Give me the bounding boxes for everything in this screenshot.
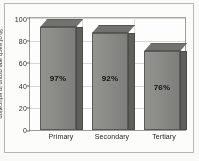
y-tickmark-100 bbox=[27, 18, 30, 19]
y-tickmark-0 bbox=[27, 131, 30, 132]
x-axis-labels: Primary Secondary Tertiary bbox=[29, 133, 186, 145]
bar-primary[interactable]: 97% bbox=[40, 20, 76, 130]
x-label-tertiary: Tertiary bbox=[135, 133, 193, 140]
bar-primary-value: 97% bbox=[40, 74, 76, 83]
y-tickmark-80 bbox=[27, 40, 30, 41]
y-tick-label-80: 80 bbox=[19, 37, 27, 44]
y-tick-label-60: 60 bbox=[19, 60, 27, 67]
y-tickmark-40 bbox=[27, 85, 30, 86]
y-tickmark-60 bbox=[27, 63, 30, 64]
y-tick-label-20: 20 bbox=[19, 105, 27, 112]
y-tickmark-20 bbox=[27, 108, 30, 109]
bar-secondary-side bbox=[128, 33, 135, 131]
bar-tertiary-value: 76% bbox=[144, 83, 180, 92]
x-label-secondary: Secondary bbox=[81, 133, 143, 140]
y-tick-label-100: 100 bbox=[15, 16, 27, 23]
bar-primary-side bbox=[76, 27, 83, 130]
y-tick-label-40: 40 bbox=[19, 82, 27, 89]
bar-secondary[interactable]: 92% bbox=[92, 26, 128, 131]
y-axis-title: % of each age group in education bbox=[0, 17, 6, 131]
bar-secondary-value: 92% bbox=[92, 74, 128, 83]
y-tick-label-0: 0 bbox=[23, 127, 27, 134]
bar-tertiary[interactable]: 76% bbox=[144, 44, 180, 130]
bar-tertiary-side bbox=[180, 51, 187, 130]
plot-area: 100 80 60 40 20 0 97% 92% 76% bbox=[29, 17, 186, 131]
chart-figure: % of each age group in education 100 80 … bbox=[0, 0, 199, 161]
